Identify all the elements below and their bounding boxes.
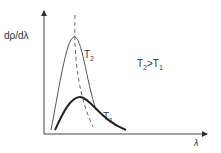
- diagram-canvas: [0, 0, 221, 153]
- peak-locus-dashed: [75, 15, 93, 127]
- curve-t1: [55, 97, 126, 130]
- relation-annotation: T2>T1: [137, 58, 163, 71]
- y-axis-label: dρ/dλ: [4, 30, 29, 41]
- t2-label: T2: [84, 49, 94, 62]
- t1-label: T1: [103, 111, 113, 124]
- x-axis-label: λ: [194, 138, 198, 148]
